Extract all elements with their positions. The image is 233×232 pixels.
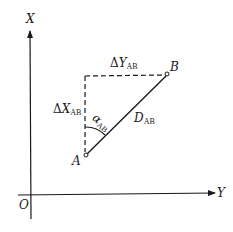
y-axis: [18, 193, 215, 195]
delta-y-label: ΔYAB: [110, 57, 138, 69]
delta-y-sub: AB: [127, 62, 138, 71]
point-b-label: B: [170, 61, 179, 73]
delta-x-symbol: X: [62, 102, 71, 116]
delta-x-sub: AB: [70, 108, 81, 117]
delta-y-symbol: Y: [119, 56, 127, 70]
y-axis-label: Y: [217, 187, 225, 199]
diagram-canvas: [0, 0, 233, 232]
point-a-label: A: [72, 155, 81, 167]
delta-y-prefix: Δ: [110, 56, 119, 70]
x-axis-label: X: [26, 13, 35, 25]
origin-label: O: [19, 199, 29, 211]
distance-sub: AB: [144, 117, 155, 126]
distance-label: DAB: [134, 112, 155, 124]
point-a-marker: [84, 153, 88, 157]
delta-y-dashed-line: [85, 75, 165, 76]
x-axis: [30, 31, 31, 219]
distance-symbol: D: [134, 111, 144, 125]
point-b-marker: [165, 72, 169, 76]
delta-x-prefix: Δ: [53, 102, 62, 116]
delta-x-label: ΔXAB: [53, 103, 81, 115]
